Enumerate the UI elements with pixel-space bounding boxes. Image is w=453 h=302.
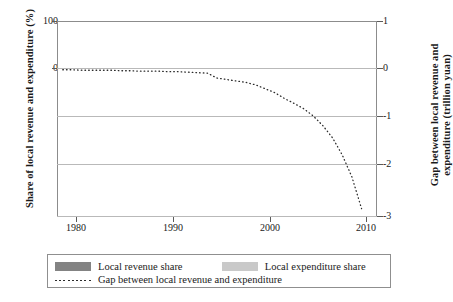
right-axis-title-line2: expenditure (trillion yuan) xyxy=(441,0,453,240)
legend-row-top: Local revenue share Local expenditure sh… xyxy=(55,260,366,272)
legend-label-expenditure: Local expenditure share xyxy=(265,261,366,272)
gap-line-path xyxy=(63,70,362,209)
right-tick-1: 1 xyxy=(383,15,413,26)
x-tick-2010: 2010 xyxy=(346,222,386,233)
right-axis-title: Gap between local revenue and expenditur… xyxy=(429,0,453,240)
right-tickmark-1 xyxy=(377,21,383,22)
plot-area xyxy=(57,21,377,217)
x-tick-1980: 1980 xyxy=(56,222,96,233)
legend-swatch-expenditure xyxy=(222,262,258,271)
gap-line-series xyxy=(57,21,377,217)
right-tickmark-0 xyxy=(377,68,383,69)
right-tick-0: 0 xyxy=(383,62,413,73)
legend-label-revenue: Local revenue share xyxy=(98,261,183,272)
right-tick-neg1: -1 xyxy=(383,110,413,121)
legend-row-bottom: Gap between local revenue and expenditur… xyxy=(55,273,282,285)
right-tickmark-neg1 xyxy=(377,116,383,117)
right-tickmark-neg2 xyxy=(377,164,383,165)
right-tickmark-neg3 xyxy=(377,216,383,217)
legend-label-gap: Gap between local revenue and expenditur… xyxy=(98,274,282,285)
legend-swatch-gap-line xyxy=(55,276,91,284)
x-tick-2000: 2000 xyxy=(250,222,290,233)
right-axis-title-line1: Gap between local revenue and xyxy=(429,0,441,240)
x-tick-1990: 1990 xyxy=(153,222,193,233)
left-axis-title: Share of local revenue and expenditure (… xyxy=(24,0,35,234)
right-tick-neg2: -2 xyxy=(383,158,413,169)
right-tick-neg3: -3 xyxy=(383,210,413,221)
legend-swatch-revenue xyxy=(55,262,91,271)
legend-box: Local revenue share Local expenditure sh… xyxy=(47,254,391,288)
